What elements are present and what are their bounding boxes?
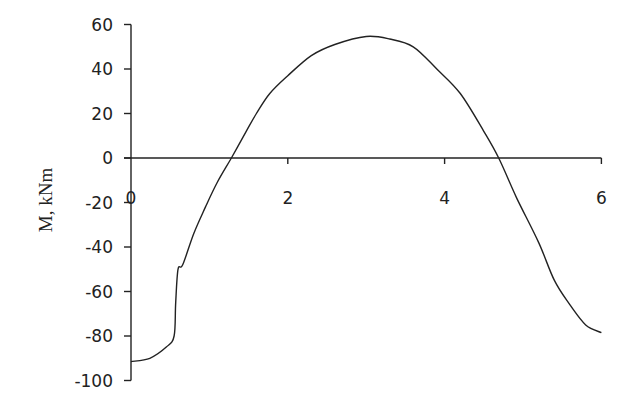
- y-tick-label: -40: [85, 237, 113, 257]
- y-tick-label: 60: [91, 15, 113, 35]
- y-axis-title: M, kNm: [35, 168, 56, 233]
- y-tick-label: 0: [102, 148, 113, 168]
- x-tick-label: 0: [126, 188, 137, 208]
- y-tick-label: 20: [91, 104, 113, 124]
- y-tick-label: -60: [85, 282, 113, 302]
- moment-curve: [131, 36, 601, 361]
- y-axis: 6040200-20-40-60-80-100: [74, 15, 131, 391]
- x-tick-label: 6: [596, 188, 607, 208]
- bending-moment-chart: 6040200-20-40-60-80-100 0246 M, kNm: [0, 0, 636, 412]
- x-tick-label: 4: [439, 188, 450, 208]
- y-tick-label: -80: [85, 326, 113, 346]
- x-tick-label: 2: [282, 188, 293, 208]
- y-tick-label: 40: [91, 59, 113, 79]
- x-axis: 0246: [124, 158, 607, 208]
- y-tick-label: -20: [85, 193, 113, 213]
- y-tick-label: -100: [74, 371, 113, 391]
